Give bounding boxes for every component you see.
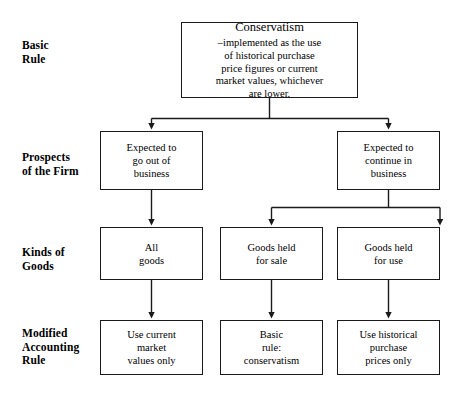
row-label-basic-rule: Basic Rule [22, 39, 49, 66]
node-expected-to-go-out-of-business-label: Expected to go out of business [123, 141, 181, 180]
node-use-current-market-values-only-label: Use current market values only [123, 328, 180, 367]
node-expected-to-continue-in-business-label: Expected to continue in business [360, 141, 418, 180]
node-conservatism: Conservatism –implemented as the use of … [181, 22, 358, 98]
node-goods-held-for-sale-label: Goods held for sale [243, 241, 299, 267]
node-goods-held-for-use: Goods held for use [337, 227, 440, 280]
row-label-kinds-of-goods: Kinds of Goods [22, 246, 65, 273]
node-basic-rule-conservatism: Basic rule: conservatism [220, 320, 323, 375]
node-conservatism-title: Conservatism [216, 19, 324, 35]
node-expected-to-continue-in-business: Expected to continue in business [337, 131, 440, 190]
node-goods-held-for-sale: Goods held for sale [220, 227, 323, 280]
node-basic-rule-conservatism-label: Basic rule: conservatism [240, 328, 303, 367]
flowchart-diagram: Basic Rule Prospects of the Firm Kinds o… [0, 0, 463, 394]
row-label-modified-accounting-rule: Modified Accounting Rule [22, 327, 79, 368]
node-use-historical-purchase-prices-only-label: Use historical purchase prices only [355, 328, 421, 367]
node-expected-to-go-out-of-business: Expected to go out of business [100, 131, 203, 190]
node-all-goods-label: All goods [135, 241, 168, 267]
node-use-current-market-values-only: Use current market values only [100, 320, 203, 375]
node-all-goods: All goods [100, 227, 203, 280]
node-goods-held-for-use-label: Goods held for use [360, 241, 416, 267]
node-use-historical-purchase-prices-only: Use historical purchase prices only [337, 320, 440, 375]
node-conservatism-content: Conservatism –implemented as the use of … [210, 19, 330, 101]
row-label-prospects-of-the-firm: Prospects of the Firm [22, 151, 79, 178]
node-conservatism-body: –implemented as the use of historical pu… [216, 37, 324, 101]
